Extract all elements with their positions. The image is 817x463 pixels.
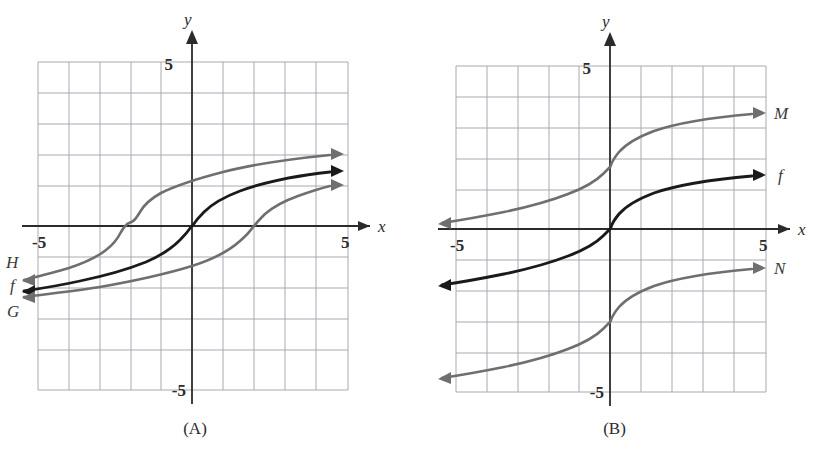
curve-label-H: H (5, 253, 20, 272)
curve-label-f-b: f (778, 166, 785, 185)
curve-H-left-arrow-icon (22, 274, 35, 286)
curve-H (22, 148, 344, 286)
curve-label-G: G (7, 302, 19, 321)
curve-f-right-arrow-icon (331, 165, 344, 177)
panel-b-caption: (B) (406, 419, 817, 439)
figure-container: -5 5 5 -5 x y H f G (A) (0, 0, 817, 463)
curve-M-left-arrow-icon (438, 217, 451, 229)
curve-label-N: N (773, 259, 787, 278)
x-axis-arrow-icon (358, 221, 370, 231)
y-tick-pos5-a: 5 (165, 55, 174, 74)
panel-b: -5 5 5 -5 x y M f N (B) (400, 0, 817, 463)
y-tick-neg5-a: -5 (172, 381, 186, 400)
x-tick-neg5-b: -5 (450, 236, 464, 255)
x-axis-label-b: x (797, 220, 806, 239)
y-tick-pos5-b: 5 (583, 59, 592, 78)
y-tick-neg5-b: -5 (590, 383, 604, 402)
x-tick-neg5-a: -5 (32, 233, 46, 252)
curve-f-b-right-arrow-icon (753, 169, 766, 181)
panel-a-plot: -5 5 5 -5 x y H f G (0, 0, 410, 410)
panel-a: -5 5 5 -5 x y H f G (A) (0, 0, 410, 463)
y-axis-arrow-icon (604, 32, 616, 46)
panel-b-plot: -5 5 5 -5 x y M f N (400, 0, 817, 410)
x-axis-arrow-icon (778, 224, 790, 234)
curve-N-right-arrow-icon (753, 262, 766, 274)
curve-label-M: M (773, 104, 789, 123)
panel-a-caption: (A) (0, 419, 400, 439)
curve-M-right-arrow-icon (753, 107, 766, 119)
curve-N-left-arrow-icon (438, 372, 451, 384)
x-axis-label-a: x (377, 217, 386, 236)
x-tick-pos5-a: 5 (341, 233, 350, 252)
x-tick-pos5-b: 5 (759, 236, 768, 255)
y-axis-label-a: y (182, 10, 192, 29)
curve-label-f-a: f (10, 276, 17, 295)
curve-G-right-arrow-icon (331, 179, 344, 191)
y-axis-arrow-icon (186, 30, 198, 44)
y-axis-label-b: y (600, 12, 610, 31)
curve-H-right-arrow-icon (331, 148, 344, 160)
curve-f-b-left-arrow-icon (438, 279, 451, 291)
